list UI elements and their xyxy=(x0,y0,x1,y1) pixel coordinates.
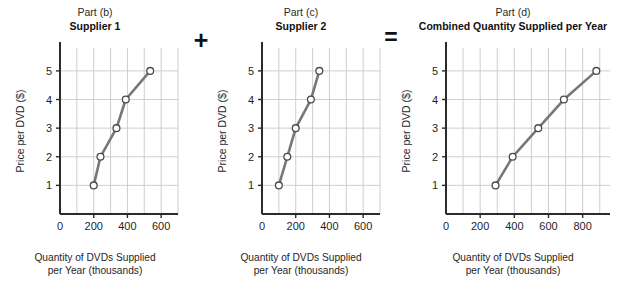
data-point-marker xyxy=(90,182,97,189)
x-tick-label: 200 xyxy=(471,220,489,232)
x-tick-label: 400 xyxy=(118,220,136,232)
data-point-marker xyxy=(147,67,154,74)
chart-panel-combined: Part (d) Combined Quantity Supplied per … xyxy=(398,0,628,290)
x-tick-label: 0 xyxy=(443,220,449,232)
part-label: Part (d) xyxy=(398,6,628,19)
data-point-marker xyxy=(292,125,299,132)
x-axis-caption-line1: Quantity of DVDs Supplied xyxy=(398,252,628,265)
data-point-marker xyxy=(307,96,314,103)
x-tick-label: 400 xyxy=(505,220,523,232)
y-tick-label: 4 xyxy=(248,94,254,106)
y-axis-label: Price per DVD ($) xyxy=(14,90,26,173)
y-tick-label: 5 xyxy=(248,65,254,77)
y-tick-label: 3 xyxy=(432,122,438,134)
data-point-marker xyxy=(122,96,129,103)
x-axis-caption-line1: Quantity of DVDs Supplied xyxy=(212,252,390,265)
x-tick-label: 600 xyxy=(354,220,372,232)
data-point-marker xyxy=(275,182,282,189)
x-tick-label: 0 xyxy=(57,220,63,232)
x-tick-label: 600 xyxy=(539,220,557,232)
x-axis-caption-line2: per Year (thousands) xyxy=(398,265,628,278)
plot-area-combined: 123450200400600800Price per DVD ($) xyxy=(398,34,628,249)
panel-heading: Part (b) Supplier 1 xyxy=(2,6,188,33)
chart-panel-supplier-1: Part (b) Supplier 1 123450200400600Price… xyxy=(2,0,188,290)
y-tick-label: 3 xyxy=(46,122,52,134)
y-axis-label: Price per DVD ($) xyxy=(400,90,412,173)
y-tick-label: 2 xyxy=(248,151,254,163)
panel-title: Supplier 2 xyxy=(212,20,390,33)
panel-heading: Part (c) Supplier 2 xyxy=(212,6,390,33)
y-tick-label: 4 xyxy=(46,94,52,106)
y-tick-label: 3 xyxy=(248,122,254,134)
x-axis-caption-line2: per Year (thousands) xyxy=(212,265,390,278)
y-axis-label: Price per DVD ($) xyxy=(216,90,228,173)
x-tick-label: 200 xyxy=(85,220,103,232)
y-tick-label: 2 xyxy=(432,151,438,163)
data-point-marker xyxy=(560,96,567,103)
x-axis-caption: Quantity of DVDs Supplied per Year (thou… xyxy=(212,252,390,277)
part-label: Part (c) xyxy=(212,6,390,19)
x-axis-caption-line1: Quantity of DVDs Supplied xyxy=(2,252,188,265)
x-tick-label: 600 xyxy=(152,220,170,232)
x-tick-label: 800 xyxy=(573,220,591,232)
data-point-marker xyxy=(97,153,104,160)
y-tick-label: 1 xyxy=(432,179,438,191)
data-point-marker xyxy=(113,125,120,132)
supply-curves-figure: Part (b) Supplier 1 123450200400600Price… xyxy=(0,0,628,290)
data-point-marker xyxy=(316,67,323,74)
part-label: Part (b) xyxy=(2,6,188,19)
y-tick-label: 5 xyxy=(46,65,52,77)
data-point-marker xyxy=(509,153,516,160)
x-tick-label: 0 xyxy=(259,220,265,232)
plus-operator-icon: + xyxy=(188,28,214,53)
plot-area-supplier-1: 123450200400600Price per DVD ($) xyxy=(2,34,188,249)
chart-panel-supplier-2: Part (c) Supplier 2 123450200400600Price… xyxy=(212,0,390,290)
plot-area-supplier-2: 123450200400600Price per DVD ($) xyxy=(212,34,390,249)
panel-title: Combined Quantity Supplied per Year xyxy=(398,20,628,33)
x-tick-label: 400 xyxy=(320,220,338,232)
y-tick-label: 1 xyxy=(248,179,254,191)
x-axis-caption-line2: per Year (thousands) xyxy=(2,265,188,278)
y-tick-label: 1 xyxy=(46,179,52,191)
data-point-marker xyxy=(492,182,499,189)
data-point-marker xyxy=(593,67,600,74)
x-axis-caption: Quantity of DVDs Supplied per Year (thou… xyxy=(2,252,188,277)
panel-title: Supplier 1 xyxy=(2,20,188,33)
y-tick-label: 5 xyxy=(432,65,438,77)
data-point-marker xyxy=(535,125,542,132)
y-tick-label: 4 xyxy=(432,94,438,106)
panel-heading: Part (d) Combined Quantity Supplied per … xyxy=(398,6,628,33)
x-axis-caption: Quantity of DVDs Supplied per Year (thou… xyxy=(398,252,628,277)
data-point-marker xyxy=(284,153,291,160)
x-tick-label: 200 xyxy=(287,220,305,232)
y-tick-label: 2 xyxy=(46,151,52,163)
